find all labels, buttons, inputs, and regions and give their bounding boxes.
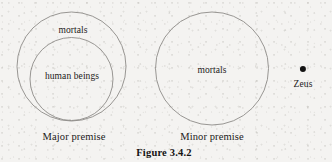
minor-premise-label: Minor premise [180, 131, 243, 142]
major-premise-human-beings-label: human beings [45, 71, 99, 81]
major-premise-mortals-label: mortals [58, 25, 87, 35]
venn-diagram-figure: mortals human beings Major premise morta… [0, 0, 332, 162]
figure-caption: Figure 3.4.2 [136, 147, 192, 158]
major-premise-label: Major premise [43, 131, 106, 142]
minor-premise-mortals-label: mortals [197, 65, 226, 75]
zeus-point-label: Zeus [294, 79, 313, 89]
